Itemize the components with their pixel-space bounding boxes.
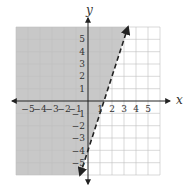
x-tick: 2	[109, 104, 115, 114]
y-tick: 4	[79, 47, 85, 57]
y-tick: −1	[72, 109, 85, 119]
inequality-graph: x y −5 −4 −3 −2 −1 1 2 3 4 5 5 4 3 2 1 −…	[0, 0, 188, 187]
y-tick: −4	[72, 146, 86, 156]
x-tick: 1	[97, 104, 103, 114]
y-tick: −2	[72, 121, 85, 131]
y-tick: 2	[79, 71, 85, 81]
y-tick: 1	[79, 84, 85, 94]
y-tick: −3	[72, 133, 86, 143]
x-tick: 3	[121, 104, 127, 114]
y-axis-label: y	[85, 3, 93, 17]
x-tick: 4	[133, 104, 139, 114]
x-tick: 5	[145, 104, 151, 114]
x-axis-label: x	[176, 93, 183, 107]
y-tick: 3	[79, 59, 85, 69]
y-tick: 5	[79, 34, 85, 44]
y-tick: −5	[72, 158, 86, 168]
